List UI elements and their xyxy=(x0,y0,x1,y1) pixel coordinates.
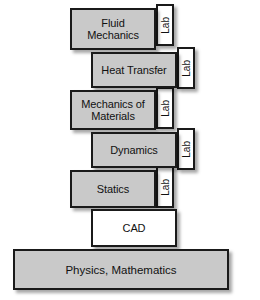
course-label: Fluid Mechanics xyxy=(84,17,142,42)
lab-box-mechanics-of-materials: Lab xyxy=(156,87,174,129)
course-label: Mechanics of Materials xyxy=(78,98,148,123)
curriculum-diagram: LabFluid MechanicsLabHeat TransferLabMec… xyxy=(0,0,260,300)
course-block-dynamics: Dynamics xyxy=(91,132,177,168)
lab-label: Lab xyxy=(181,141,192,158)
course-block-heat-transfer: Heat Transfer xyxy=(91,52,177,88)
course-block-fluid-mechanics: Fluid Mechanics xyxy=(70,8,156,50)
lab-label: Lab xyxy=(160,100,171,117)
course-block-cad: CAD xyxy=(91,209,177,247)
course-block-mechanics-of-materials: Mechanics of Materials xyxy=(70,90,156,130)
lab-box-statics: Lab xyxy=(156,166,174,208)
lab-label: Lab xyxy=(160,179,171,196)
lab-box-heat-transfer: Lab xyxy=(177,47,195,89)
foundation-label: Physics, Mathematics xyxy=(65,264,176,276)
foundation-block-physics-mathematics: Physics, Mathematics xyxy=(13,249,229,290)
lab-box-dynamics: Lab xyxy=(177,128,195,170)
lab-label: Lab xyxy=(181,60,192,77)
lab-box-fluid-mechanics: Lab xyxy=(156,4,174,46)
course-label: Heat Transfer xyxy=(98,64,169,76)
course-label: Statics xyxy=(94,183,132,195)
course-block-statics: Statics xyxy=(70,170,156,208)
course-label: CAD xyxy=(120,222,149,234)
course-label: Dynamics xyxy=(107,144,161,156)
lab-label: Lab xyxy=(160,17,171,34)
